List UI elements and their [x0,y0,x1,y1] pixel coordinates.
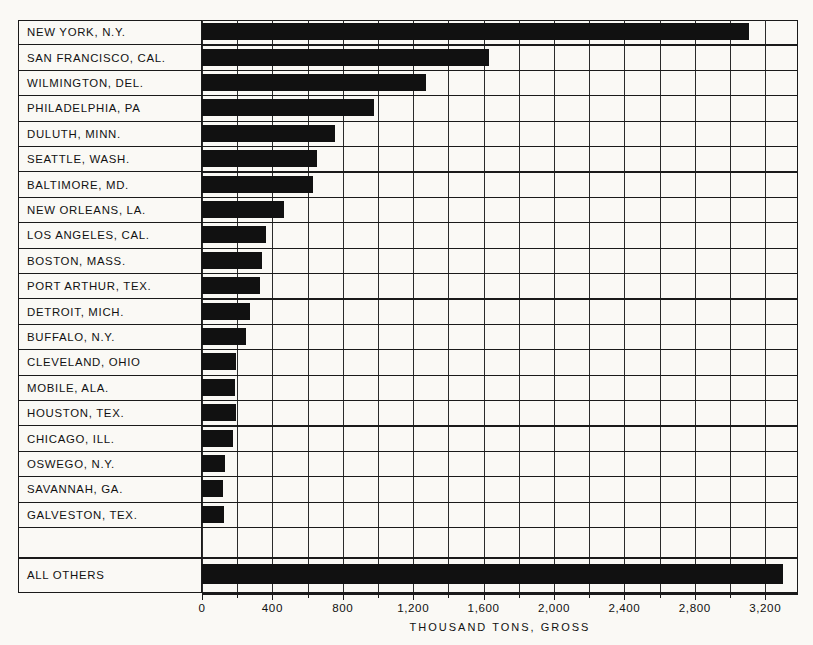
row-separator [202,146,798,147]
gridline [554,20,555,593]
bar [202,150,317,167]
bar-chart: NEW YORK, N.Y.SAN FRANCISCO, CAL.WILMING… [0,0,813,645]
category-label-text: PORT ARTHUR, TEX. [27,280,151,292]
gridline [448,20,449,593]
bar [202,480,223,497]
gridline [519,20,520,593]
row-separator [202,273,798,274]
category-label-text: BUFFALO, N.Y. [27,331,115,343]
x-axis-tick [695,593,696,600]
bar [202,277,260,294]
category-label: HOUSTON, TEX. [18,401,202,426]
category-label-text: MOBILE, ALA. [27,382,109,394]
bar [202,404,236,421]
gridline [730,20,731,593]
row-separator [202,502,798,503]
gridline [660,20,661,593]
category-label: WILMINGTON, DEL. [18,71,202,96]
x-axis-tick [413,593,414,600]
category-label: CLEVELAND, OHIO [18,350,202,375]
category-label: SEATTLE, WASH. [18,147,202,172]
bar [202,328,246,345]
row-separator [202,121,798,122]
category-label-text: GALVESTON, TEX. [27,509,138,521]
category-label: OSWEGO, N.Y. [18,452,202,477]
bar [202,226,266,243]
bar [202,49,489,66]
bar [202,23,749,40]
row-separator [202,527,798,528]
x-axis-line [202,593,798,595]
bar [202,74,426,91]
x-axis-tick [343,593,344,600]
category-label: LOS ANGELES, CAL. [18,223,202,248]
x-axis-minor-tick [589,593,590,598]
x-axis-tick-label: 2,400 [608,601,640,614]
row-separator [202,400,798,401]
row-separator [202,248,798,249]
x-axis-minor-tick [448,593,449,598]
row-separator [202,451,798,452]
category-label-text: DETROIT, MICH. [27,306,124,318]
bar [202,125,335,142]
x-axis-tick [202,593,203,600]
bar [202,176,313,193]
category-label-text: NEW YORK, N.Y. [27,26,126,38]
x-axis-title: THOUSAND TONS, GROSS [202,621,798,633]
gridline [589,20,590,593]
category-label: CHICAGO, ILL. [18,426,202,451]
row-separator [202,476,798,477]
row-separator [202,70,798,71]
bar [202,99,374,116]
row-separator [202,171,798,172]
bar [202,201,284,218]
category-label: BUFFALO, N.Y. [18,325,202,350]
category-label: DETROIT, MICH. [18,299,202,324]
row-separator [202,95,798,96]
category-label-text: LOS ANGELES, CAL. [27,229,150,241]
row-separator [202,197,798,198]
gridline [484,20,485,593]
x-axis-minor-tick [308,593,309,598]
gridline [413,20,414,593]
x-axis-minor-tick [660,593,661,598]
x-axis-minor-tick [730,593,731,598]
row-separator [202,557,798,559]
x-axis-tick-label: 2,000 [538,601,570,614]
category-label: GALVESTON, TEX. [18,503,202,528]
bar [202,506,224,523]
category-label: SAVANNAH, GA. [18,477,202,502]
x-axis-tick [624,593,625,600]
category-label-text: CLEVELAND, OHIO [27,356,141,368]
bar [202,379,235,396]
category-label: NEW YORK, N.Y. [18,20,202,45]
category-label-text: WILMINGTON, DEL. [27,77,144,89]
row-separator [18,557,202,559]
x-axis-tick [272,593,273,600]
gridline [378,20,379,593]
x-axis-minor-tick [378,593,379,598]
x-axis-minor-tick [237,593,238,598]
category-label-text: DULUTH, MINN. [27,128,121,140]
category-label-text: BOSTON, MASS. [27,255,126,267]
category-label: BOSTON, MASS. [18,249,202,274]
category-label: MOBILE, ALA. [18,376,202,401]
x-axis-tick [484,593,485,600]
gridline [695,20,696,593]
category-label: NEW ORLEANS, LA. [18,198,202,223]
x-axis-tick-label: 1,600 [468,601,500,614]
category-label-column: NEW YORK, N.Y.SAN FRANCISCO, CAL.WILMING… [18,20,202,593]
row-separator [202,44,798,45]
x-axis-minor-tick [519,593,520,598]
plot-area [202,20,798,593]
category-label-text: OSWEGO, N.Y. [27,458,115,470]
category-label-text: CHICAGO, ILL. [27,433,115,445]
bar [202,564,783,584]
gridline [624,20,625,593]
bar [202,430,233,447]
row-separator [202,222,798,223]
category-label-text: SAVANNAH, GA. [27,483,123,495]
category-label: SAN FRANCISCO, CAL. [18,45,202,70]
row-separator [202,425,798,426]
category-label-text: SEATTLE, WASH. [27,153,130,165]
